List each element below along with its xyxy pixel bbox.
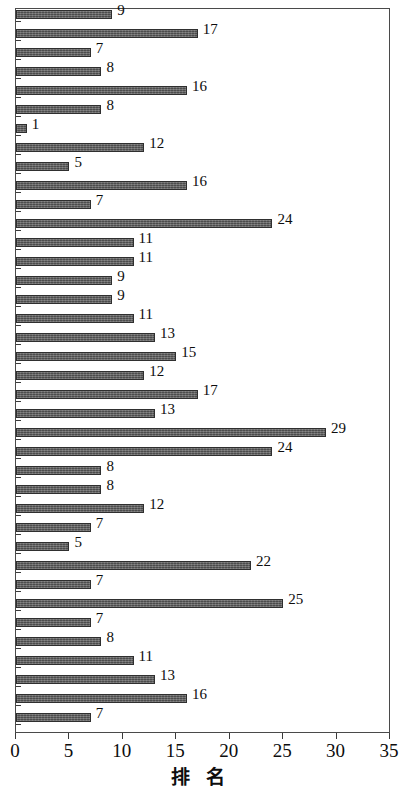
- y-axis-tick: [16, 78, 21, 79]
- bar-value-label: 7: [96, 611, 104, 626]
- bar-row: 5: [16, 541, 390, 560]
- bar: [16, 599, 283, 608]
- bar-value-label: 8: [106, 60, 114, 75]
- y-axis-tick: [16, 458, 21, 459]
- bar: [16, 694, 187, 703]
- bar-value-label: 12: [149, 136, 164, 151]
- y-axis-tick: [16, 249, 21, 250]
- bar-value-label: 17: [203, 22, 218, 37]
- bar: [16, 580, 91, 589]
- x-axis-title: 排 名: [0, 765, 401, 789]
- bar: [16, 428, 326, 437]
- bar-value-label: 17: [203, 383, 218, 398]
- bar: [16, 656, 134, 665]
- bar-value-label: 7: [96, 193, 104, 208]
- y-axis-tick: [16, 59, 21, 60]
- x-axis-tick-labels: 05101520253035: [0, 740, 401, 764]
- bar: [16, 523, 91, 532]
- bar-row: 8: [16, 636, 390, 655]
- bar-value-label: 8: [106, 98, 114, 113]
- bar-value-label: 5: [74, 155, 82, 170]
- bar: [16, 409, 155, 418]
- y-axis-tick: [16, 534, 21, 535]
- bar-value-label: 11: [139, 231, 153, 246]
- bar-value-label: 11: [139, 250, 153, 265]
- y-axis-tick: [16, 667, 21, 668]
- x-axis-ticks: [15, 733, 390, 739]
- y-axis-tick: [16, 648, 21, 649]
- bar: [16, 466, 101, 475]
- bar: [16, 48, 91, 57]
- y-axis-tick: [16, 439, 21, 440]
- bar-value-label: 12: [149, 497, 164, 512]
- y-axis-tick: [16, 40, 21, 41]
- bar-row: 9: [16, 294, 390, 313]
- bar-value-label: 5: [74, 535, 82, 550]
- bar-row: 8: [16, 465, 390, 484]
- bar-row: 7: [16, 47, 390, 66]
- bar-value-label: 9: [117, 3, 125, 18]
- bar-value-label: 22: [256, 554, 271, 569]
- bar-value-label: 25: [288, 592, 303, 607]
- bar-value-label: 7: [96, 41, 104, 56]
- bar: [16, 200, 91, 209]
- y-axis-tick: [16, 420, 21, 421]
- bar: [16, 67, 101, 76]
- y-axis-tick: [16, 629, 21, 630]
- bar: [16, 219, 272, 228]
- y-axis-tick: [16, 154, 21, 155]
- x-axis-tick-label: 0: [10, 740, 20, 762]
- y-axis-tick: [16, 306, 21, 307]
- bar-row: 16: [16, 180, 390, 199]
- x-axis-tick-label: 20: [219, 740, 238, 762]
- y-axis-tick: [16, 268, 21, 269]
- x-axis-tick-label: 30: [326, 740, 345, 762]
- x-axis-tick-label: 35: [380, 740, 399, 762]
- y-axis-tick: [16, 496, 21, 497]
- bar: [16, 105, 101, 114]
- bar-row: 11: [16, 256, 390, 275]
- bar: [16, 542, 69, 551]
- bar-value-label: 13: [160, 402, 175, 417]
- y-axis-tick: [16, 344, 21, 345]
- bar-chart: 9177816811251672411119911131512171329248…: [0, 0, 401, 797]
- bar-value-label: 1: [32, 117, 40, 132]
- x-axis-tick: [389, 733, 390, 739]
- bar-row: 16: [16, 85, 390, 104]
- bar-row: 24: [16, 446, 390, 465]
- x-axis-tick: [175, 733, 176, 739]
- x-axis-tick-label: 15: [166, 740, 185, 762]
- bar: [16, 333, 155, 342]
- bar-value-label: 8: [106, 630, 114, 645]
- bar: [16, 713, 91, 722]
- x-axis-tick: [229, 733, 230, 739]
- bar-value-label: 7: [96, 706, 104, 721]
- bar-row: 11: [16, 655, 390, 674]
- bar: [16, 504, 144, 513]
- bar: [16, 124, 27, 133]
- bar-value-label: 8: [106, 459, 114, 474]
- bar-row: 17: [16, 389, 390, 408]
- bar-row: 7: [16, 522, 390, 541]
- bar-value-label: 11: [139, 307, 153, 322]
- bar: [16, 29, 198, 38]
- y-axis-tick: [16, 553, 21, 554]
- y-axis-tick: [16, 97, 21, 98]
- bar: [16, 10, 112, 19]
- bar-row: 13: [16, 332, 390, 351]
- bar-row: 24: [16, 218, 390, 237]
- bar: [16, 390, 198, 399]
- bar-value-label: 13: [160, 326, 175, 341]
- bar-value-label: 12: [149, 364, 164, 379]
- bar-value-label: 11: [139, 649, 153, 664]
- y-axis-tick: [16, 116, 21, 117]
- x-axis-tick: [15, 733, 16, 739]
- bar-value-label: 16: [192, 687, 207, 702]
- bar-row: 1: [16, 123, 390, 142]
- y-axis-tick: [16, 325, 21, 326]
- y-axis-tick: [16, 21, 21, 22]
- x-axis-tick-label: 5: [64, 740, 74, 762]
- bar: [16, 276, 112, 285]
- bar-value-label: 8: [106, 478, 114, 493]
- bar-value-label: 24: [277, 440, 292, 455]
